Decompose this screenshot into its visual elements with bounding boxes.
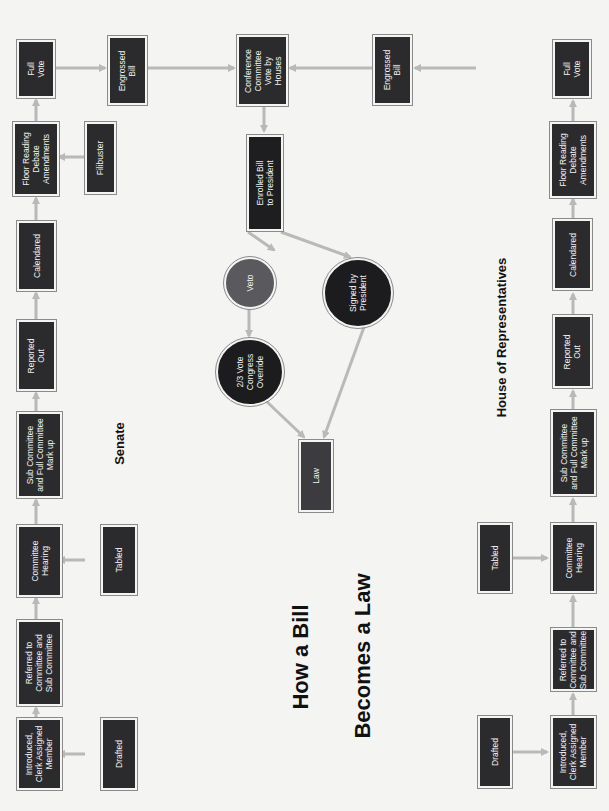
senate-floor-reading: Floor Reading Debate Amendments — [13, 122, 59, 196]
override-circle: 2/3 Vote Congress Override — [216, 338, 284, 406]
house-calendared: Calendared — [553, 219, 592, 290]
senate-filibuster: Filibuster — [85, 122, 116, 194]
senate-committee-hearing: Committee Hearing — [17, 525, 62, 597]
senate-calendared: Calendared — [17, 221, 56, 291]
conference-committee: Conference Committee Vote by Houses — [237, 35, 288, 106]
house-markup: Sub Committee and Full Committee Mark up — [551, 410, 596, 496]
house-committee-hearing: Committee Hearing — [551, 523, 596, 593]
senate-markup: Sub Committee and Full Committee Mark up — [17, 412, 62, 498]
senate-introduced: Introduced, Clerk Assigned Member — [17, 718, 62, 790]
house-referred: Referred to Committee and Sub Committee — [551, 628, 596, 691]
senate-engrossed-bill: Engrossed Bill — [108, 36, 147, 105]
title-line1: How a Bill — [288, 604, 314, 709]
senate-referred: Referred to Committee and Sub Committee — [17, 620, 62, 706]
senate-label: Senate — [112, 422, 127, 465]
enrolled-bill: Enrolled Bill to President — [247, 135, 283, 231]
house-reported-out: Reported Out — [553, 315, 592, 388]
title-line2: Becomes a Law — [350, 573, 376, 738]
signed-circle: Signed by President — [323, 258, 393, 328]
senate-tabled: Tabled — [101, 525, 137, 595]
law-box: Law — [299, 440, 333, 512]
senate-drafted: Drafted — [101, 718, 137, 790]
senate-full-vote: Full Vote — [17, 40, 55, 98]
house-drafted: Drafted — [478, 716, 512, 788]
senate-reported-out: Reported Out — [17, 320, 56, 391]
house-full-vote: Full Vote — [553, 40, 591, 98]
house-floor-reading: Floor Reading Debate Amendments — [550, 122, 596, 198]
house-label: House of Representatives — [494, 258, 509, 418]
house-engrossed-bill: Engrossed Bill — [373, 35, 412, 105]
house-tabled: Tabled — [478, 523, 512, 593]
house-introduced: Introduced, Clerk Assigned Member — [551, 716, 596, 788]
veto-circle: Veto — [224, 257, 276, 309]
